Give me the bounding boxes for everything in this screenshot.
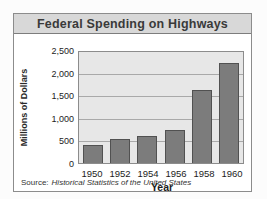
chart-figure: Federal Spending on Highways Millions of… [0, 0, 267, 199]
y-axis-label: Millions of Dollars [19, 51, 32, 164]
y-tick-label: 2,000 [51, 69, 74, 79]
x-tick-label: 1958 [193, 168, 214, 179]
y-tick-label: 1,000 [51, 114, 74, 124]
chart-title: Federal Spending on Highways [14, 14, 251, 34]
y-axis-ticks: 2,5002,0001,5001,0005000 [38, 51, 74, 164]
bar-1958 [192, 90, 212, 163]
bar-1960 [219, 63, 239, 163]
bar-1952 [110, 139, 130, 163]
bar-1956 [165, 130, 185, 163]
bar-1954 [137, 136, 157, 163]
y-tick-label: 2,500 [51, 46, 74, 56]
x-tick-label: 1960 [221, 168, 242, 179]
source-prefix: Source: [21, 178, 49, 187]
plot-area [78, 51, 244, 164]
bar-1950 [83, 145, 103, 163]
y-tick-label: 500 [59, 136, 74, 146]
y-tick-label: 1,500 [51, 91, 74, 101]
chart-frame: Federal Spending on Highways Millions of… [13, 13, 252, 192]
y-tick-label: 0 [69, 159, 74, 169]
bar-group [79, 52, 243, 163]
chart-area: Millions of Dollars 2,5002,0001,5001,000… [14, 35, 251, 191]
source-line: Source:Historical Statistics of the Unit… [21, 178, 191, 187]
source-text: Historical Statistics of the United Stat… [52, 178, 192, 187]
